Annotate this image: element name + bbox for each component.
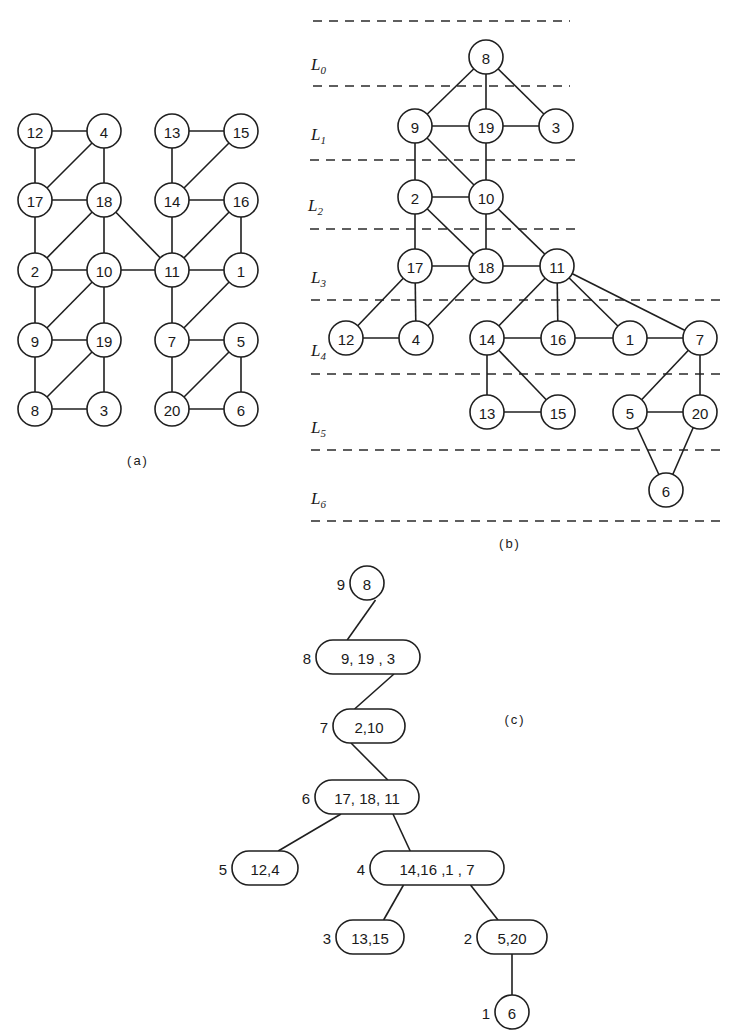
panel-c-tree: 899, 19 , 382,10717, 18, 11612,4514,16 ,… xyxy=(219,566,547,1029)
tree-node-level-6: 17, 18, 116 xyxy=(302,780,419,814)
node-label: 18 xyxy=(478,259,495,276)
panel-c-nodes: 899, 19 , 382,10717, 18, 11612,4514,16 ,… xyxy=(219,566,547,1029)
node-label: 13 xyxy=(164,124,181,141)
b-node-8: 8 xyxy=(469,40,503,74)
tree-node-level-2: 5,202 xyxy=(464,920,547,954)
node-label: 16 xyxy=(550,331,567,348)
b-node-13: 13 xyxy=(470,395,504,429)
node-label: 12 xyxy=(27,124,44,141)
level-label-2: L2 xyxy=(307,196,323,217)
node-label: 14,16 ,1 , 7 xyxy=(399,861,474,878)
panel-a-caption: (a) xyxy=(127,453,149,468)
b-node-7: 7 xyxy=(683,321,717,355)
a-node-17: 17 xyxy=(18,183,52,217)
figure-canvas: 1241315171814162101119197583206 (a) L0L1… xyxy=(0,0,735,1036)
node-label: 1 xyxy=(237,263,245,280)
node-label: 4 xyxy=(412,331,420,348)
node-label: 14 xyxy=(479,331,496,348)
node-label: 1 xyxy=(626,331,634,348)
level-label-0: L0 xyxy=(310,55,326,76)
b-node-19: 19 xyxy=(469,109,503,143)
level-number: 7 xyxy=(320,719,328,736)
level-label-5: L5 xyxy=(310,418,326,439)
tree-node-level-9: 89 xyxy=(337,566,384,600)
b-node-16: 16 xyxy=(541,321,575,355)
b-node-1: 1 xyxy=(613,321,647,355)
node-label: 6 xyxy=(508,1005,516,1022)
node-label: 6 xyxy=(237,402,245,419)
tree-node-level-3: 13,153 xyxy=(323,920,404,954)
node-label: 3 xyxy=(100,402,108,419)
node-label: 19 xyxy=(96,333,113,350)
a-node-15: 15 xyxy=(224,114,258,148)
node-label: 11 xyxy=(164,263,180,280)
c-edge-c8-c7 xyxy=(355,674,394,709)
node-label: 10 xyxy=(478,190,495,207)
node-label: 7 xyxy=(168,333,176,350)
node-label: 9 xyxy=(411,119,419,136)
panel-b-level-labels: L0L1L2L3L4L5L6 xyxy=(307,55,326,510)
b-node-14: 14 xyxy=(470,321,504,355)
node-label: 15 xyxy=(550,405,567,422)
node-label: 12 xyxy=(338,331,355,348)
panel-b-caption: (b) xyxy=(499,536,521,551)
b-node-18: 18 xyxy=(469,249,503,283)
node-label: 8 xyxy=(482,50,490,67)
level-number: 5 xyxy=(219,861,227,878)
c-edge-c6-c4 xyxy=(393,814,410,851)
b-node-12: 12 xyxy=(329,321,363,355)
b-node-5: 5 xyxy=(613,395,647,429)
a-node-11: 11 xyxy=(155,253,189,287)
node-label: 14 xyxy=(164,193,181,210)
level-number: 4 xyxy=(357,861,365,878)
a-node-19: 19 xyxy=(87,323,121,357)
a-node-6: 6 xyxy=(224,392,258,426)
level-number: 6 xyxy=(302,790,310,807)
tree-node-level-8: 9, 19 , 38 xyxy=(303,640,420,674)
level-number: 2 xyxy=(464,930,472,947)
node-label: 8 xyxy=(31,402,39,419)
a-node-9: 9 xyxy=(18,323,52,357)
level-number: 9 xyxy=(337,576,345,593)
node-label: 20 xyxy=(164,402,181,419)
tree-node-level-1: 61 xyxy=(482,995,529,1029)
node-label: 16 xyxy=(233,193,250,210)
level-label-6: L6 xyxy=(310,489,326,510)
node-label: 9, 19 , 3 xyxy=(341,650,395,667)
b-node-4: 4 xyxy=(399,321,433,355)
b-node-15: 15 xyxy=(541,395,575,429)
b-node-6: 6 xyxy=(649,473,683,507)
panel-b-nodes: 8919321017181112414161713155206 xyxy=(329,40,717,507)
b-node-9: 9 xyxy=(398,109,432,143)
level-label-1: L1 xyxy=(310,125,326,146)
a-node-20: 20 xyxy=(155,392,189,426)
a-node-4: 4 xyxy=(87,114,121,148)
node-label: 13 xyxy=(479,405,496,422)
node-label: 10 xyxy=(96,263,113,280)
panel-a-graph: 1241315171814162101119197583206 (a) xyxy=(18,114,258,468)
c-edge-c6-c5 xyxy=(278,814,341,851)
node-label: 17, 18, 11 xyxy=(334,790,400,807)
a-node-5: 5 xyxy=(224,323,258,357)
c-edge-c4-c3 xyxy=(384,885,404,920)
a-node-1: 1 xyxy=(224,253,258,287)
node-label: 15 xyxy=(233,124,250,141)
level-label-3: L3 xyxy=(310,268,326,289)
node-label: 5,20 xyxy=(497,930,526,947)
a-node-13: 13 xyxy=(155,114,189,148)
a-node-7: 7 xyxy=(155,323,189,357)
tree-node-level-5: 12,45 xyxy=(219,851,298,885)
node-label: 2,10 xyxy=(354,719,383,736)
node-label: 11 xyxy=(549,259,565,276)
tree-node-level-4: 14,16 ,1 , 74 xyxy=(357,851,504,885)
a-node-16: 16 xyxy=(224,183,258,217)
level-number: 3 xyxy=(323,930,331,947)
a-node-14: 14 xyxy=(155,183,189,217)
node-label: 17 xyxy=(407,259,424,276)
node-label: 17 xyxy=(27,193,44,210)
node-label: 2 xyxy=(31,263,39,280)
panel-a-edges xyxy=(35,131,241,409)
node-label: 13,15 xyxy=(351,930,389,947)
node-label: 12,4 xyxy=(250,861,279,878)
b-node-17: 17 xyxy=(398,249,432,283)
